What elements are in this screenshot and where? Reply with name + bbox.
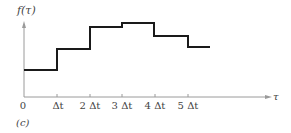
x-tick-label-3: 3 Δt (112, 100, 133, 111)
x-tick-label-4: 4 Δt (145, 100, 166, 111)
y-axis-label: f(τ) (17, 4, 36, 17)
x-tick-label-5: 5 Δt (178, 100, 199, 111)
y-axis-arrow-icon (22, 21, 26, 28)
x-tick-label-1: Δt (52, 100, 63, 111)
step-function-figure: f(τ) τ 0 Δt 2 Δt 3 Δt 4 Δt 5 Δt (c) (0, 0, 291, 133)
step-function-line (24, 23, 210, 70)
x-axis-label: τ (273, 91, 279, 102)
plot-area (0, 0, 291, 133)
x-tick-label-0: 0 (20, 100, 26, 111)
x-tick-label-2: 2 Δt (80, 100, 101, 111)
x-axis-arrow-icon (265, 95, 272, 99)
panel-label: (c) (16, 117, 29, 128)
